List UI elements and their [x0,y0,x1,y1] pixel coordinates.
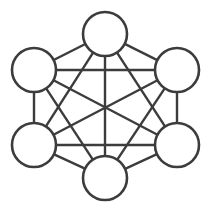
graph-node-lower-right [155,123,199,167]
graph-node-top [83,12,127,56]
graph-edge-top-to-upper-right [124,44,158,61]
diagram-canvas [0,0,210,210]
graph-edge-bottom-to-lower-left [53,154,85,169]
graph-edge-top-to-upper-left [53,44,86,61]
graph-edge-lower-right-to-bottom [125,154,158,169]
graph-node-upper-right [155,48,199,92]
graph-node-lower-left [12,123,56,167]
graph-node-upper-left [12,48,56,92]
graph-node-bottom [83,156,127,200]
complete-graph-k6 [0,0,210,210]
